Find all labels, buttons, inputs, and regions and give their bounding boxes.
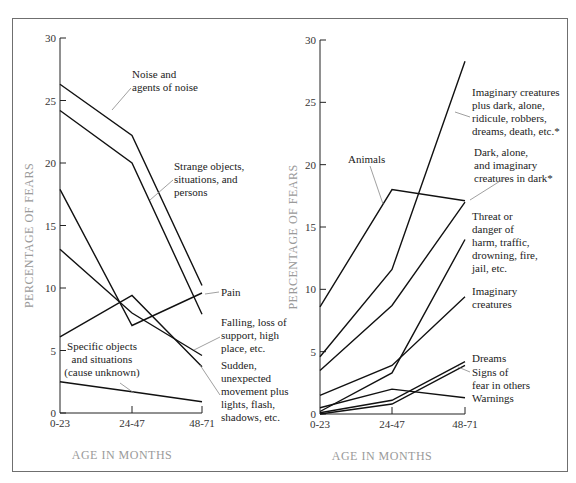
leader-line <box>370 166 383 204</box>
label-threat: jail, etc. <box>471 262 507 274</box>
y-tick-label: 15 <box>45 220 57 232</box>
y-tick-label: 30 <box>45 32 57 44</box>
y-tick-label: 10 <box>305 283 317 295</box>
label-strange: Strange objects, <box>174 160 245 172</box>
x-tick-label: 48-71 <box>452 418 478 430</box>
label-falling: place, etc. <box>221 342 266 354</box>
label-sudden: unexpected <box>221 372 272 384</box>
y-tick-label: 20 <box>45 157 57 169</box>
label-dark-alone: Dark, alone, <box>474 146 528 158</box>
label-warnings: Warnings <box>472 392 514 404</box>
fear-charts: 0510152025300-2324-4748-71AGE IN MONTHSP… <box>0 0 576 483</box>
series-line <box>320 190 465 307</box>
label-strange: situations, and <box>174 173 238 185</box>
series-line <box>320 61 465 357</box>
x-tick-label: 48-71 <box>189 417 215 429</box>
x-tick-label: 24-47 <box>379 418 405 430</box>
y-tick-label: 15 <box>305 221 317 233</box>
label-threat: harm, traffic, <box>472 236 530 248</box>
y-axis-title: PERCENTAGE OF FEARS <box>286 164 300 309</box>
series-line <box>60 189 202 325</box>
y-tick-label: 5 <box>51 345 57 357</box>
leader-line <box>455 112 470 117</box>
label-noise: Noise and <box>132 68 177 80</box>
label-threat: danger of <box>472 223 514 235</box>
y-tick-label: 30 <box>305 34 317 46</box>
label-dark-alone: and imaginary <box>474 159 538 171</box>
label-strange: persons <box>174 186 208 198</box>
label-falling: Falling, loss of <box>221 316 287 328</box>
right-chart <box>320 40 465 414</box>
x-axis-title: AGE IN MONTHS <box>72 448 173 462</box>
y-tick-label: 20 <box>305 159 317 171</box>
axis-lines <box>320 40 465 414</box>
label-specific: Specific objects <box>67 340 137 352</box>
series-line <box>60 382 202 402</box>
x-tick-label: 0-23 <box>50 417 71 429</box>
x-tick-label: 24-47 <box>119 417 145 429</box>
label-falling: support, high <box>221 329 280 341</box>
label-sudden: lights, flash, <box>221 398 275 410</box>
label-imaginary-creatures: creatures <box>472 298 512 310</box>
label-dreams: Dreams <box>472 352 506 364</box>
y-axis-title: PERCENTAGE OF FEARS <box>22 163 36 308</box>
y-tick-label: 5 <box>311 346 317 358</box>
leader-line <box>194 337 220 350</box>
label-imaginary-creatures: Imaginary <box>472 285 518 297</box>
leader-line <box>458 367 470 372</box>
series-line <box>60 111 202 315</box>
label-sudden: movement plus <box>221 385 289 397</box>
label-imaginary-plus: plus dark, alone, <box>472 99 545 111</box>
y-tick-label: 25 <box>45 95 57 107</box>
label-animals: Animals <box>348 153 385 165</box>
label-pain: Pain <box>221 286 241 298</box>
label-imaginary-plus: dreams, death, etc.* <box>472 125 560 137</box>
series-line <box>320 362 465 413</box>
label-noise: agents of noise <box>132 81 198 93</box>
leader-line <box>200 365 220 395</box>
y-tick-label: 10 <box>45 282 57 294</box>
y-tick-label: 25 <box>305 96 317 108</box>
series-line <box>320 297 465 396</box>
leader-line <box>205 292 219 294</box>
x-tick-label: 0-23 <box>310 418 331 430</box>
label-signs-of-fear: fear in others <box>472 379 530 391</box>
label-specific: and situations <box>72 353 133 365</box>
label-sudden: Sudden, <box>221 359 257 371</box>
label-dark-alone: creatures in dark* <box>474 172 553 184</box>
series-line <box>320 202 465 370</box>
label-threat: drowning, fire, <box>472 249 538 261</box>
label-sudden: shadows, etc. <box>221 411 280 423</box>
label-threat: Threat or <box>472 210 513 222</box>
label-signs-of-fear: Signs of <box>472 366 509 378</box>
label-imaginary-plus: Imaginary creatures <box>472 86 560 98</box>
x-axis-title: AGE IN MONTHS <box>332 449 433 463</box>
series-line <box>320 389 465 408</box>
leader-line <box>112 88 131 110</box>
label-specific: (cause unknown) <box>64 366 140 379</box>
label-imaginary-plus: ridicule, robbers, <box>472 112 547 124</box>
